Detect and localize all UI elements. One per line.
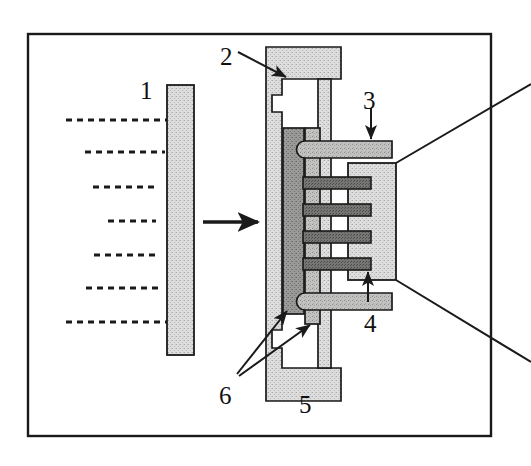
incident-beam-dashed-lines	[66, 120, 170, 322]
callout-label-4: 4	[364, 311, 377, 336]
fin-top-outer	[297, 141, 393, 158]
fin-inner-4	[303, 258, 371, 270]
callout-label-6: 6	[219, 383, 232, 408]
technical-diagram-canvas	[0, 0, 531, 466]
magnification-line-upper	[396, 84, 531, 163]
callout-label-1: 1	[140, 78, 153, 103]
source-plate	[167, 85, 194, 355]
fin-inner-1	[303, 177, 371, 189]
fin-bottom-outer	[297, 293, 393, 310]
callout-label-3: 3	[363, 88, 376, 113]
fin-inner-3	[303, 231, 371, 243]
magnification-leader-lines	[396, 84, 531, 362]
callout-label-5: 5	[299, 392, 312, 417]
figure-root: 1 2 3 4 5 6	[0, 0, 531, 466]
magnification-line-lower	[396, 280, 531, 362]
outer-border	[28, 34, 491, 436]
callout-label-2: 2	[220, 44, 233, 69]
fin-inner-2	[303, 204, 371, 216]
